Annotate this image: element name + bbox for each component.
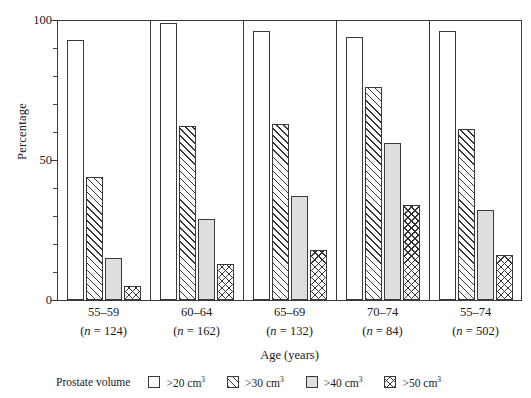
bar-65-69-20cm3 (253, 31, 270, 300)
bar-55-74-20cm3 (439, 31, 456, 300)
bar-65-69-30cm3 (272, 124, 289, 300)
bar-55-59-50cm3 (124, 286, 141, 300)
bar-60-64-30cm3 (179, 126, 196, 300)
x-group-label-3: 65–69(n = 132) (243, 304, 336, 340)
legend-label: >30 cm3 (245, 375, 284, 389)
x-group-range: 55–59 (57, 304, 150, 321)
x-group-sample-size: (n = 162) (150, 323, 243, 340)
bar-55-74-50cm3 (496, 255, 513, 300)
bar-70-74-50cm3 (403, 205, 420, 300)
panel-group-1 (57, 20, 150, 301)
bar-70-74-40cm3 (384, 143, 401, 300)
legend-label: >20 cm3 (166, 375, 205, 389)
panel-group-2 (150, 20, 243, 301)
bar-cluster (429, 20, 522, 300)
legend-swatch-diagonal-hatch (227, 376, 239, 388)
y-tick-label-0: 0 (22, 294, 52, 307)
x-group-sample-size: (n = 124) (57, 323, 150, 340)
bar-55-59-30cm3 (86, 177, 103, 300)
bar-cluster (57, 20, 150, 300)
panel-group-5 (429, 20, 522, 301)
plot-area (57, 20, 522, 300)
legend-item-3: >40 cm3 (306, 375, 363, 389)
legend-label: >50 cm3 (402, 375, 441, 389)
bar-65-69-50cm3 (310, 250, 327, 300)
x-axis-group-labels: 55–59(n = 124)60–64(n = 162)65–69(n = 13… (57, 304, 522, 348)
y-tick-label-100: 100 (22, 14, 52, 27)
legend-items: >20 cm3>30 cm3>40 cm3>50 cm3 (148, 375, 463, 389)
legend-label: >40 cm3 (324, 375, 363, 389)
panel-group-3 (243, 20, 336, 301)
bar-70-74-30cm3 (365, 87, 382, 300)
x-group-sample-size: (n = 502) (429, 323, 522, 340)
bar-55-74-30cm3 (458, 129, 475, 300)
bar-55-59-40cm3 (105, 258, 122, 300)
legend-item-1: >20 cm3 (148, 375, 205, 389)
bar-55-59-20cm3 (67, 40, 84, 300)
bar-60-64-40cm3 (198, 219, 215, 300)
x-group-sample-size: (n = 84) (336, 323, 429, 340)
bar-60-64-50cm3 (217, 264, 234, 300)
bar-65-69-40cm3 (291, 196, 308, 300)
y-tick-label-50: 50 (22, 154, 52, 167)
legend-item-2: >30 cm3 (227, 375, 284, 389)
legend-title: Prostate volume (56, 376, 130, 388)
panel-group-4 (336, 20, 429, 301)
x-group-sample-size: (n = 132) (243, 323, 336, 340)
y-axis-tick-labels: 050100 (22, 0, 52, 398)
x-group-range: 60–64 (150, 304, 243, 321)
legend-item-4: >50 cm3 (384, 375, 441, 389)
x-group-range: 70–74 (336, 304, 429, 321)
bar-70-74-20cm3 (346, 37, 363, 300)
bar-chart-figure: Percentage 050100 55–59(n = 124)60–64(n … (0, 0, 531, 398)
x-group-range: 55–74 (429, 304, 522, 321)
x-group-label-1: 55–59(n = 124) (57, 304, 150, 340)
bar-cluster (336, 20, 429, 300)
x-axis-title: Age (years) (57, 348, 522, 363)
bar-cluster (243, 20, 336, 300)
legend-swatch-cross-hatch (384, 376, 396, 388)
x-group-label-2: 60–64(n = 162) (150, 304, 243, 340)
bar-cluster (150, 20, 243, 300)
legend-swatch-light-gray (306, 376, 318, 388)
x-group-range: 65–69 (243, 304, 336, 321)
bar-60-64-20cm3 (160, 23, 177, 300)
chart-legend: Prostate volume >20 cm3>30 cm3>40 cm3>50… (56, 372, 526, 392)
x-group-label-5: 55–74(n = 502) (429, 304, 522, 340)
bar-55-74-40cm3 (477, 210, 494, 300)
legend-swatch-plain (148, 376, 160, 388)
x-group-label-4: 70–74(n = 84) (336, 304, 429, 340)
